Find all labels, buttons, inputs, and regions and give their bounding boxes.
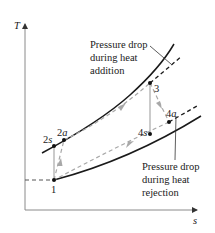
heat-addition-annotation: Pressure drop during heat addition: [90, 39, 171, 76]
state-2s-label: 2s: [43, 134, 52, 145]
state-4s-point: [148, 132, 152, 136]
state-3-point: [148, 81, 152, 85]
t-s-diagram: T s 1 2s 2a 3 4s: [0, 0, 215, 233]
heat-addition-line-2: during heat: [90, 52, 138, 63]
heat-rejection-annotation: Pressure drop during heat rejection: [142, 116, 199, 198]
heat-addition-line-3: addition: [90, 65, 125, 76]
state-4s-sub: s: [143, 127, 147, 138]
x-axis-label: s: [193, 215, 197, 226]
state-4a-point: [167, 120, 171, 124]
arrow-heat-rejection-icon: [126, 141, 134, 148]
heat-rejection-line-3: rejection: [142, 187, 179, 198]
heat-rejection-line-2: during heat: [142, 174, 190, 185]
state-2s-sub: s: [48, 134, 52, 145]
state-1-label: 1: [51, 184, 56, 195]
state-2a-sub: a: [62, 127, 67, 138]
state-3-label: 3: [154, 83, 159, 94]
state-4s-label: 4s: [138, 127, 147, 138]
heat-rejection-line-1: Pressure drop: [142, 161, 199, 172]
heat-addition-leader: [150, 46, 171, 64]
heat-rejection-leader: [175, 116, 176, 160]
state-2s-point: [52, 144, 56, 148]
state-2a-label: 2a: [57, 127, 68, 138]
y-axis-label: T: [14, 20, 21, 31]
state-2a-point: [62, 138, 66, 142]
heat-addition-line-1: Pressure drop: [90, 39, 147, 50]
state-4a-label: 4a: [166, 108, 177, 119]
state-1-point: [52, 178, 56, 182]
